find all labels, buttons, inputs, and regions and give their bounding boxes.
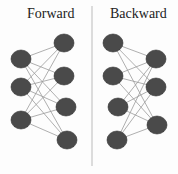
forward-title: Forward: [27, 6, 74, 22]
forward-nodes: [11, 34, 77, 149]
backward-title: Backward: [110, 6, 167, 22]
node: [54, 67, 74, 85]
node: [103, 34, 123, 52]
node: [147, 116, 167, 134]
node: [57, 131, 77, 149]
node: [146, 50, 166, 68]
node: [146, 78, 166, 96]
node: [54, 34, 74, 52]
network-graph: [0, 0, 178, 174]
node: [108, 98, 128, 116]
node: [56, 98, 76, 116]
node: [11, 111, 31, 129]
node: [11, 78, 31, 96]
node: [11, 50, 31, 68]
diagram: Forward Backward: [0, 0, 178, 174]
node: [103, 67, 123, 85]
node: [107, 131, 127, 149]
